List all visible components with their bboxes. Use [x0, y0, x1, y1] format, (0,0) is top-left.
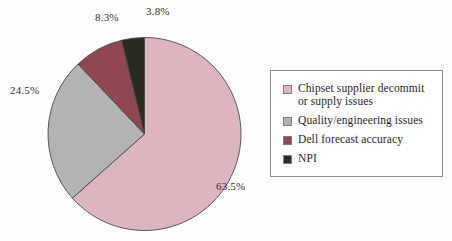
legend-label-quality-line1: Quality/engineering issues [298, 114, 423, 126]
pie-chart [48, 36, 241, 232]
legend-label-chipset-line2: or supply issues [298, 95, 424, 108]
pie-label-dell-forecast-accuracy: 8.3% [95, 11, 119, 23]
pie-label-chipset-supplier-decommit: 63.5% [216, 180, 245, 192]
legend-label-npi: NPI [298, 152, 317, 165]
chart-legend: Chipset supplier decommit or supply issu… [270, 70, 443, 177]
legend-swatch-icon-dell [283, 136, 292, 145]
pie-slice-group [48, 38, 241, 231]
pie-label-npi: 3.8% [146, 5, 170, 17]
legend-label-npi-line1: NPI [298, 152, 317, 164]
legend-item-dell-forecast-accuracy: Dell forecast accuracy [283, 133, 436, 146]
legend-item-npi: NPI [283, 152, 436, 165]
legend-swatch-icon-chipset [283, 85, 292, 94]
legend-label-chipset-line1: Chipset supplier decommit [298, 82, 424, 94]
legend-swatch-icon-npi [283, 155, 292, 164]
pie-chart-figure: 3.8% 8.3% 24.5% 63.5% Chipset supplier d… [0, 0, 452, 241]
legend-label-quality: Quality/engineering issues [298, 114, 423, 127]
legend-label-chipset: Chipset supplier decommit or supply issu… [298, 82, 424, 108]
pie-label-quality-engineering-issues: 24.5% [10, 84, 39, 96]
pie-chart-svg [48, 36, 241, 232]
legend-label-dell: Dell forecast accuracy [298, 133, 403, 146]
legend-item-list: Chipset supplier decommit or supply issu… [283, 82, 436, 165]
legend-item-quality-engineering-issues: Quality/engineering issues [283, 114, 436, 127]
legend-label-dell-line1: Dell forecast accuracy [298, 133, 403, 145]
legend-item-chipset-supplier-decommit: Chipset supplier decommit or supply issu… [283, 82, 436, 108]
legend-swatch-icon-quality [283, 117, 292, 126]
